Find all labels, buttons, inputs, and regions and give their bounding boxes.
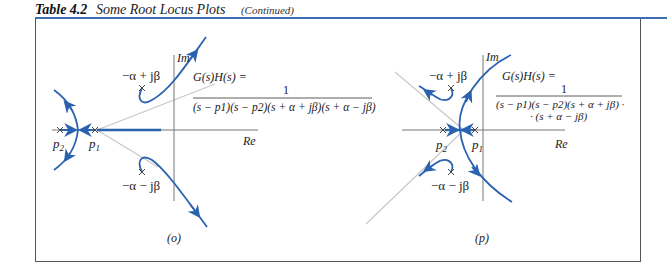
real-axis-label: Re — [554, 137, 568, 151]
pole-label-lower: −α − jβ — [431, 178, 470, 193]
real-axis-label: Re — [242, 134, 256, 148]
panel-label-p: (p) — [475, 231, 489, 245]
pole-label-p2: p2 — [52, 136, 65, 153]
panel-p: −α + jβ −α − jβ p2 p1 Im Re G(s)H(s) = 1… — [366, 50, 625, 245]
asymptote-lower — [97, 130, 158, 167]
pole-label-p2: p2 — [435, 137, 448, 154]
tf-denominator: (s − p1)(s − p2)(s + α + jβ)(s + α − jβ) — [193, 101, 376, 114]
locus-branch-up — [54, 90, 78, 130]
locus-upper-complex — [419, 86, 452, 100]
pole-label-lower: −α − jβ — [122, 178, 161, 193]
pole-label-upper: −α + jβ — [122, 68, 161, 83]
imag-axis-label: Im — [485, 50, 499, 64]
panel-label-o: (o) — [167, 231, 181, 245]
tf-numerator: 1 — [283, 83, 289, 97]
tf-lhs: G(s)H(s) = — [193, 70, 247, 84]
pole-label-upper: −α + jβ — [429, 68, 468, 83]
imag-axis-label: Im — [176, 51, 190, 65]
pole-label-p1: p1 — [88, 136, 100, 153]
root-locus-figure: −α + jβ −α − jβ p2 p1 Im Re G(s)H(s) = 1… — [0, 0, 667, 275]
tf-denominator-line2: · (s + α − jβ) — [530, 110, 588, 123]
pole-label-p1: p1 — [471, 137, 483, 154]
panel-o: −α + jβ −α − jβ p2 p1 Im Re G(s)H(s) = 1… — [52, 37, 376, 245]
asymptote-lower — [366, 128, 466, 224]
tf-numerator: 1 — [561, 82, 567, 96]
tf-lhs: G(s)H(s) = — [502, 69, 556, 83]
